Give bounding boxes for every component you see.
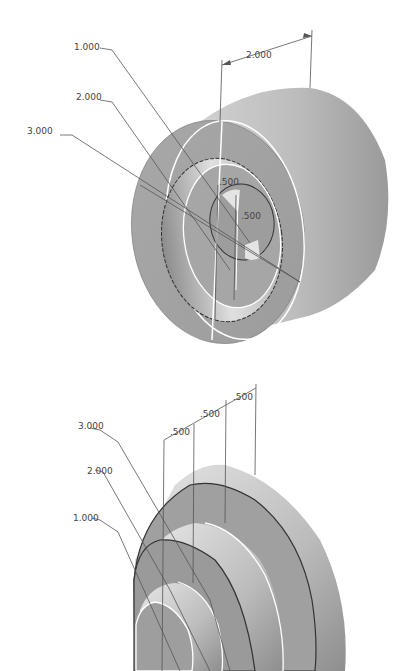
shaft-dim-1000-label: 1.000 bbox=[73, 513, 99, 523]
shaft-step2-label: .500 bbox=[200, 409, 220, 419]
shaft-step3-label: .500 bbox=[233, 392, 253, 402]
dim-inner-b-label: .500 bbox=[241, 211, 261, 221]
dim-1000-label: 1.000 bbox=[74, 42, 100, 52]
stepped-shaft-view: 3.000 2.000 1.000 .500 .500 .500 bbox=[73, 384, 346, 671]
dim-2000-label: 2.000 bbox=[76, 92, 102, 102]
shaft-dim-2000-label: 2.000 bbox=[87, 466, 113, 476]
shaft-step1-label: .500 bbox=[170, 427, 190, 437]
dim-3000-label: 3.000 bbox=[27, 126, 53, 136]
dim-length-label: 2.000 bbox=[246, 50, 272, 60]
bushing-view: 1.000 2.000 3.000 2.000 .500 .500 bbox=[27, 30, 388, 355]
dim-inner-a-label: .500 bbox=[219, 177, 239, 187]
technical-drawing: 1.000 2.000 3.000 2.000 .500 .500 3.000 … bbox=[0, 0, 413, 671]
shaft-dim-3000-label: 3.000 bbox=[78, 421, 104, 431]
